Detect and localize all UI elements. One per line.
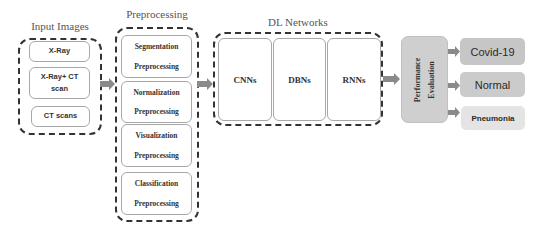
- arrow-right-icon: [100, 78, 116, 90]
- input-xray-ct: X-Ray+ CT scan: [29, 67, 90, 99]
- classification-label: Classification: [135, 174, 178, 194]
- visualization-preprocessing-label: Preprocessing: [134, 146, 179, 166]
- performance-label: Performance: [410, 57, 424, 101]
- input-images-title: Input Images: [18, 20, 102, 32]
- preprocessing-title: Preprocessing: [115, 8, 199, 20]
- preprocessing-classification: Classification Preprocessing: [121, 172, 192, 215]
- performance-evaluation-box: Performance Evaluation: [401, 36, 448, 123]
- evaluation-label: Evaluation: [425, 57, 439, 101]
- network-cnns: CNNs: [218, 38, 272, 121]
- covid19-label: Covid-19: [470, 46, 514, 58]
- preprocessing-visualization: Visualization Preprocessing: [121, 124, 192, 167]
- rnns-label: RNNs: [342, 75, 365, 85]
- classification-preprocessing-label: Preprocessing: [134, 194, 179, 214]
- normal-label: Normal: [475, 79, 510, 91]
- cnns-label: CNNs: [233, 75, 256, 85]
- preprocessing-segmentation: Segmentation Preprocessing: [121, 35, 192, 78]
- dbns-label: DBNs: [288, 75, 311, 85]
- output-covid19: Covid-19: [460, 38, 525, 65]
- normalization-preprocessing-label: Preprocessing: [134, 102, 179, 122]
- output-normal: Normal: [460, 72, 525, 97]
- network-dbns: DBNs: [273, 38, 326, 121]
- preprocessing-normalization: Normalization Preprocessing: [121, 81, 192, 123]
- network-rnns: RNNs: [327, 38, 381, 121]
- segmentation-label: Segmentation: [135, 37, 179, 57]
- input-ct-scans-label: CT scans: [44, 109, 77, 123]
- visualization-label: Visualization: [136, 126, 178, 146]
- normalization-label: Normalization: [133, 83, 179, 103]
- performance-evaluation-label: Performance Evaluation: [410, 57, 439, 101]
- input-xray: X-Ray: [29, 41, 90, 62]
- pneumonia-label: Pneumonia: [471, 114, 514, 123]
- arrow-right-icon: [383, 73, 401, 85]
- arrow-right-icon: [448, 107, 461, 118]
- segmentation-preprocessing-label: Preprocessing: [134, 57, 179, 77]
- output-pneumonia: Pneumonia: [461, 106, 525, 130]
- input-xray-ct-label: X-Ray+ CT scan: [36, 71, 83, 95]
- input-xray-label: X-Ray: [49, 44, 70, 58]
- dl-networks-title: DL Networks: [213, 16, 383, 28]
- input-ct-scans: CT scans: [31, 106, 90, 127]
- arrow-right-icon: [197, 78, 214, 90]
